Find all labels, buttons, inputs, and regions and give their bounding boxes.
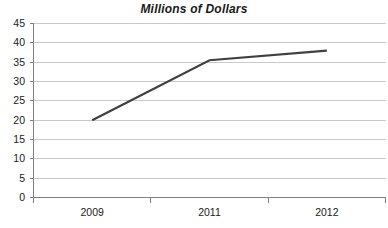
data-series-group [92,51,327,121]
y-axis-tick-label: 20 [3,115,25,125]
y-axis-tick-label: 45 [3,18,25,28]
gridlines-group [34,24,386,198]
plot-area [0,0,388,228]
y-axis-tick-label: 10 [3,153,25,163]
x-axis-ticks-group [34,198,386,203]
y-axis-ticks-group [30,24,34,198]
x-axis-tick-label: 2009 [34,207,151,218]
y-axis-tick-label: 5 [3,173,25,183]
y-axis-tick-label: 15 [3,134,25,144]
y-axis-tick-label: 30 [3,76,25,86]
x-axis-tick-label: 2012 [268,207,385,218]
axes-group [34,24,386,198]
y-axis-tick-label: 25 [3,95,25,105]
line-chart: Millions of Dollars 051015202530354045 2… [0,0,388,228]
y-axis-tick-label: 0 [3,192,25,202]
y-axis-tick-label: 40 [3,37,25,47]
x-axis-tick-label: 2011 [151,207,268,218]
series-line-0 [92,51,327,121]
y-axis-tick-label: 35 [3,57,25,67]
